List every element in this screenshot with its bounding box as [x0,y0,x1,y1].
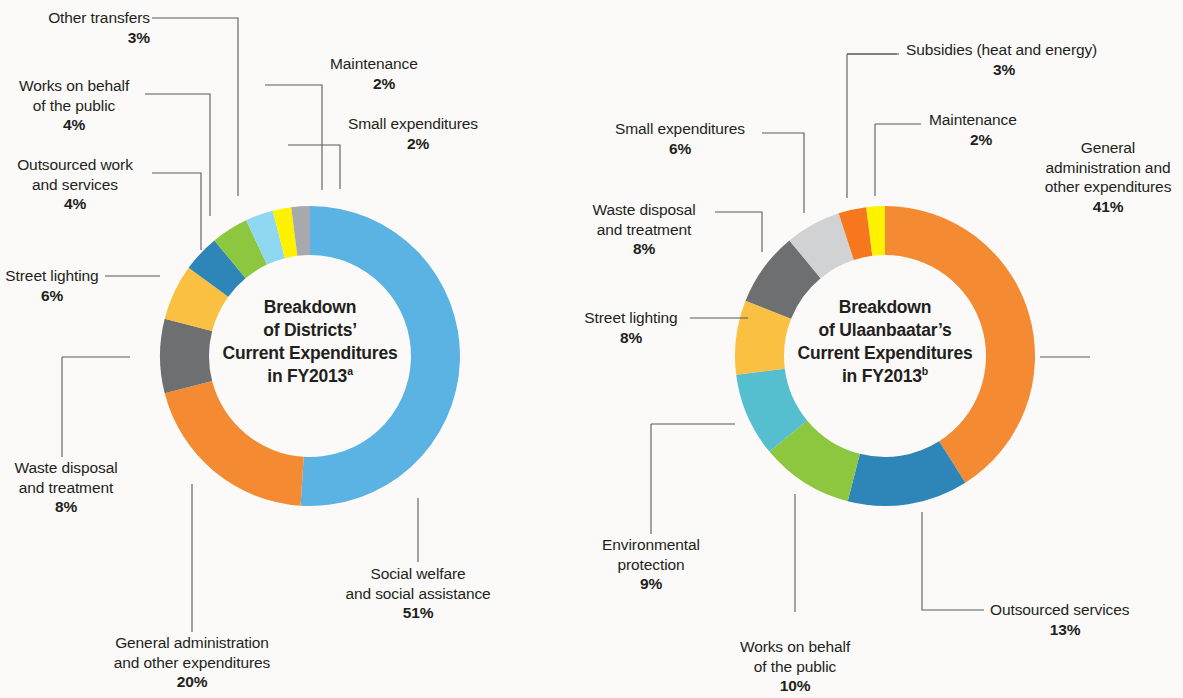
leader-other-transfers [152,18,238,196]
label-street-lighting-right: Street lighting 8% [578,308,684,347]
label-works-public-right: Works on behalf of the public 10% [726,637,864,696]
label-gen-admin-left: General administration and other expendi… [80,633,304,692]
leader-outsourced [922,512,984,610]
label-waste-left: Waste disposal and treatment 8% [4,458,128,517]
label-social-welfare: Social welfare and social assistance 51% [306,564,530,623]
leader-waste [715,212,762,252]
right-chart-footnote-marker: b [922,365,928,377]
right-chart-center-title: Breakdown of Ulaanbaatar’s Current Expen… [783,296,987,388]
label-works-public-right-pct: 10% [726,676,864,696]
leader-maintenance [875,124,921,196]
figure-canvas: Other transfers 3% Works on behalf of th… [0,0,1183,698]
label-waste-left-pct: 8% [4,497,128,517]
leader-subsidies [847,54,897,198]
label-environmental: Environmental protection 9% [586,535,716,594]
label-other-transfers: Other transfers 3% [0,8,150,47]
label-outsourced-right-pct: 13% [990,620,1140,640]
leader-maintenance [265,85,322,190]
label-subsidies: Subsidies (heat and energy) 3% [906,40,1176,79]
label-gen-admin-right: General administration and other expendi… [1034,138,1182,216]
label-works-public-left-pct: 4% [6,115,142,135]
label-street-lighting-left-pct: 6% [0,286,104,306]
label-maintenance-left: Maintenance 2% [330,54,470,93]
label-outsourced-right: Outsourced services 13% [990,600,1170,639]
leader-environmental [651,424,735,534]
label-gen-admin-right-pct: 41% [1034,197,1182,217]
donut-slice [165,381,304,506]
left-chart-center-title: Breakdown of Districts’ Current Expendit… [208,296,412,388]
label-other-transfers-pct: 3% [0,28,150,48]
left-chart-footnote-marker: a [347,365,353,377]
label-gen-admin-left-pct: 20% [80,672,304,692]
label-small-exp-right: Small expenditures 6% [605,119,755,158]
leader-small-exp [288,145,340,189]
label-outsourced-left-pct: 4% [2,194,148,214]
label-maintenance-right-pct: 2% [929,130,1033,150]
leader-small-exp [762,133,804,213]
label-small-exp-left-pct: 2% [348,134,488,154]
label-outsourced-left: Outsourced work and services 4% [2,155,148,214]
label-social-welfare-pct: 51% [306,603,530,623]
label-small-exp-right-pct: 6% [605,139,755,159]
label-waste-right: Waste disposal and treatment 8% [578,200,710,259]
donut-slice [160,319,212,394]
leader-outsourced [152,173,201,250]
label-waste-right-pct: 8% [578,239,710,259]
label-works-public-left: Works on behalf of the public 4% [6,76,142,135]
label-street-lighting-left: Street lighting 6% [0,266,104,305]
label-subsidies-pct: 3% [906,60,1102,80]
label-street-lighting-right-pct: 8% [578,328,684,348]
label-maintenance-left-pct: 2% [330,74,438,94]
label-environmental-pct: 9% [586,574,716,594]
label-small-exp-left: Small expenditures 2% [348,114,518,153]
leader-works-public [145,94,210,216]
